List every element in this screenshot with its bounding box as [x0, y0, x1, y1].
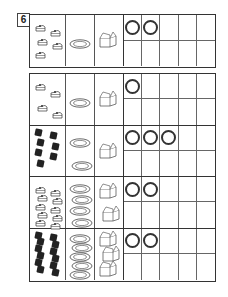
cake-slice-icon — [52, 105, 63, 113]
box-icon — [98, 90, 118, 107]
answer-box[interactable] — [197, 151, 215, 176]
answer-box[interactable] — [160, 126, 178, 151]
answer-box[interactable] — [142, 254, 160, 280]
cake-slice-icon — [35, 45, 46, 53]
answer-box[interactable] — [197, 229, 215, 255]
boxes-cell — [95, 229, 124, 281]
answer-box[interactable] — [142, 41, 160, 67]
plates-cell — [66, 74, 95, 125]
answer-box[interactable] — [142, 15, 160, 41]
cake-slice-icon — [50, 183, 61, 191]
answer-box[interactable] — [160, 74, 178, 99]
grid-row — [30, 177, 215, 229]
answer-box[interactable] — [197, 15, 215, 41]
answer-box[interactable] — [124, 229, 142, 255]
cake-slice-icon — [35, 77, 46, 85]
cake-slice-icon — [35, 213, 46, 221]
chocolate-icon — [51, 142, 59, 150]
answer-box[interactable] — [124, 254, 142, 280]
circle-icon — [125, 20, 140, 35]
answer-box[interactable] — [179, 15, 197, 41]
chocolate-icon — [34, 128, 42, 136]
cake-slice-icon — [35, 18, 46, 26]
answer-box[interactable] — [160, 254, 178, 280]
plate-icon — [69, 35, 91, 45]
answer-box[interactable] — [179, 177, 197, 202]
chocolate-icon — [36, 159, 44, 167]
chocolate-icon — [49, 152, 57, 160]
answer-box[interactable] — [179, 74, 197, 99]
answer-box[interactable] — [142, 229, 160, 255]
answer-box[interactable] — [197, 177, 215, 202]
answer-box[interactable] — [160, 41, 178, 67]
box-icon — [98, 31, 118, 48]
plates-cell — [66, 126, 95, 177]
answer-box[interactable] — [124, 177, 142, 202]
plates-cell — [66, 177, 95, 228]
answer-box[interactable] — [197, 254, 215, 280]
cake-slice-icon — [35, 180, 46, 188]
boxes-cell — [95, 177, 124, 228]
answer-box[interactable] — [124, 99, 142, 124]
answer-box[interactable] — [160, 177, 178, 202]
answer-box[interactable] — [179, 229, 197, 255]
circle-icon — [161, 130, 176, 145]
answer-box[interactable] — [179, 41, 197, 67]
answer-box[interactable] — [142, 126, 160, 151]
plate-icon — [71, 157, 93, 167]
answer-box[interactable] — [142, 74, 160, 99]
cake-slice-icon — [50, 216, 61, 224]
answer-box[interactable] — [197, 126, 215, 151]
chocolate-icon — [36, 138, 44, 146]
answer-box[interactable] — [179, 202, 197, 227]
cake-slice-icon — [52, 191, 63, 199]
chocolate-icon — [49, 131, 57, 139]
circles-cell — [124, 229, 215, 281]
answer-box[interactable] — [124, 15, 142, 41]
answer-box[interactable] — [142, 202, 160, 227]
answer-box[interactable] — [142, 99, 160, 124]
circles-cell — [124, 177, 215, 228]
answer-box[interactable] — [142, 177, 160, 202]
answer-box[interactable] — [160, 229, 178, 255]
answer-box[interactable] — [197, 41, 215, 67]
answer-box[interactable] — [179, 126, 197, 151]
answer-box[interactable] — [124, 151, 142, 176]
answer-box[interactable] — [179, 151, 197, 176]
answer-box[interactable] — [124, 126, 142, 151]
plate-icon — [69, 202, 91, 212]
items-cell — [30, 15, 66, 66]
boxes-cell — [95, 74, 124, 125]
chocolate-icon — [36, 265, 44, 273]
answer-box[interactable] — [124, 202, 142, 227]
answer-box[interactable] — [197, 202, 215, 227]
chocolate-icon — [34, 149, 42, 157]
grid-row — [30, 74, 215, 126]
plate-icon — [71, 191, 93, 201]
answer-box[interactable] — [142, 151, 160, 176]
circle-icon — [143, 20, 158, 35]
answer-box[interactable] — [160, 99, 178, 124]
circle-icon — [143, 130, 158, 145]
circle-icon — [125, 233, 140, 248]
items-cell — [30, 177, 66, 228]
cake-slice-icon — [52, 36, 63, 44]
plate-icon — [69, 134, 91, 144]
answer-box[interactable] — [179, 254, 197, 280]
box-icon — [98, 182, 118, 199]
answer-box[interactable] — [197, 74, 215, 99]
answer-box[interactable] — [124, 41, 142, 67]
cake-slice-icon — [37, 205, 48, 213]
cake-slice-icon — [37, 188, 48, 196]
answer-box[interactable] — [124, 74, 142, 99]
answer-box[interactable] — [160, 151, 178, 176]
answer-box[interactable] — [197, 99, 215, 124]
circle-icon — [125, 130, 140, 145]
answer-box[interactable] — [160, 15, 178, 41]
grid-row — [30, 126, 215, 178]
plate-icon — [69, 94, 91, 104]
box-icon — [98, 260, 118, 277]
answer-box[interactable] — [160, 202, 178, 227]
box-icon — [98, 142, 118, 159]
answer-box[interactable] — [179, 99, 197, 124]
